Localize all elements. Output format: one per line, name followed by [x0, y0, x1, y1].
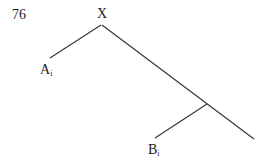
- root-label: X: [97, 7, 107, 21]
- leaf-label-a: Ai: [40, 63, 52, 78]
- branch-node-b: [155, 104, 207, 138]
- leaf-a-subscript: i: [50, 69, 52, 78]
- leaf-b-letter: B: [148, 142, 157, 157]
- leaf-a-letter: A: [40, 62, 50, 77]
- leaf-b-subscript: i: [157, 149, 159, 158]
- branch-x-a: [50, 25, 101, 58]
- tree-diagram: [0, 0, 270, 161]
- leaf-label-b: Bi: [148, 143, 160, 158]
- branch-x-main: [102, 25, 254, 139]
